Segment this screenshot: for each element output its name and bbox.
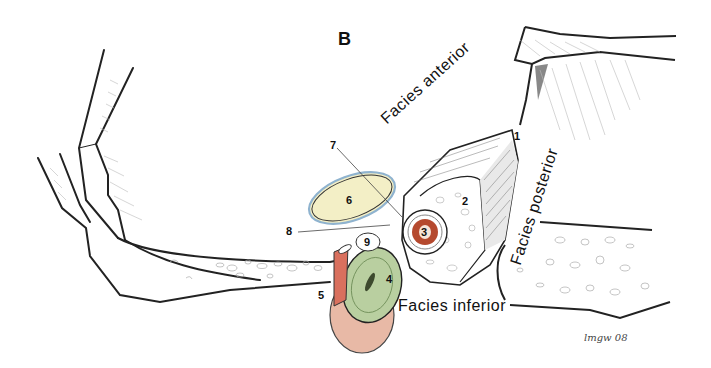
artist-signature: lmgw 08 [584, 333, 628, 343]
label-6: 6 [346, 195, 352, 206]
anatomical-illustration [0, 0, 711, 368]
bone-texture-left [170, 260, 322, 279]
label-1: 1 [514, 131, 520, 142]
label-5: 5 [318, 290, 324, 301]
label-facies-inferior: Facies inferior [398, 298, 506, 314]
label-4: 4 [386, 274, 392, 285]
panel-label: B [338, 30, 351, 48]
top-right-shadow [535, 64, 548, 100]
label-8: 8 [286, 226, 292, 237]
label-3: 3 [421, 227, 427, 238]
left-bone-hatching [50, 80, 142, 220]
label-7: 7 [330, 140, 336, 151]
left-bone-wall [38, 50, 340, 302]
structure-2-bone [402, 130, 518, 285]
bone-texture-right [517, 237, 649, 295]
label-9: 9 [364, 237, 370, 248]
label-2: 2 [462, 196, 468, 207]
